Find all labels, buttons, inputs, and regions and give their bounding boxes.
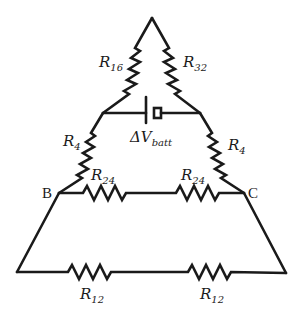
circuit-diagram: R16 R32 ΔVbatt R4 R4 B C R24 R24 R12 R12 bbox=[0, 0, 301, 310]
label-r4-left: R4 bbox=[62, 132, 81, 152]
label-r16: R16 bbox=[98, 53, 124, 73]
label-r32: R32 bbox=[182, 53, 207, 73]
resistor-r12-zigzag bbox=[17, 265, 286, 279]
node-label-b: B bbox=[42, 185, 52, 201]
resistor-r24-left-zigzag bbox=[59, 186, 244, 200]
label-r12-left: R12 bbox=[79, 285, 104, 305]
label-r24-left: R24 bbox=[90, 166, 115, 186]
label-battery: ΔVbatt bbox=[129, 128, 173, 148]
label-r4-right: R4 bbox=[227, 136, 246, 156]
label-r24-right: R24 bbox=[180, 166, 205, 186]
wire-left-outer bbox=[17, 193, 59, 272]
node-label-c: C bbox=[248, 185, 258, 201]
label-r12-right: R12 bbox=[199, 285, 224, 305]
wire-right-outer bbox=[244, 193, 286, 273]
